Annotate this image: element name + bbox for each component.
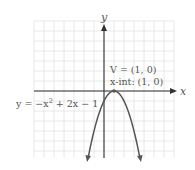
vertex-point (112, 89, 116, 93)
curve-arrow-right-icon (137, 155, 143, 162)
curve-arrow-left-icon (86, 155, 92, 162)
x-axis-arrow-icon (170, 88, 177, 94)
x-intercept-label: x-int: (1, 0) (110, 76, 163, 87)
y-axis-label: y (100, 11, 108, 24)
vertex-label: V = (1, 0) (109, 64, 156, 75)
y-axis-arrow-icon (101, 24, 107, 31)
x-axis-label: x (180, 85, 187, 98)
equation-label: y = −x2 + 2x − 1 (15, 97, 98, 109)
graph: x y V = (1, 0) x-int: (1, 0) y = −x2 + 2… (0, 0, 195, 170)
